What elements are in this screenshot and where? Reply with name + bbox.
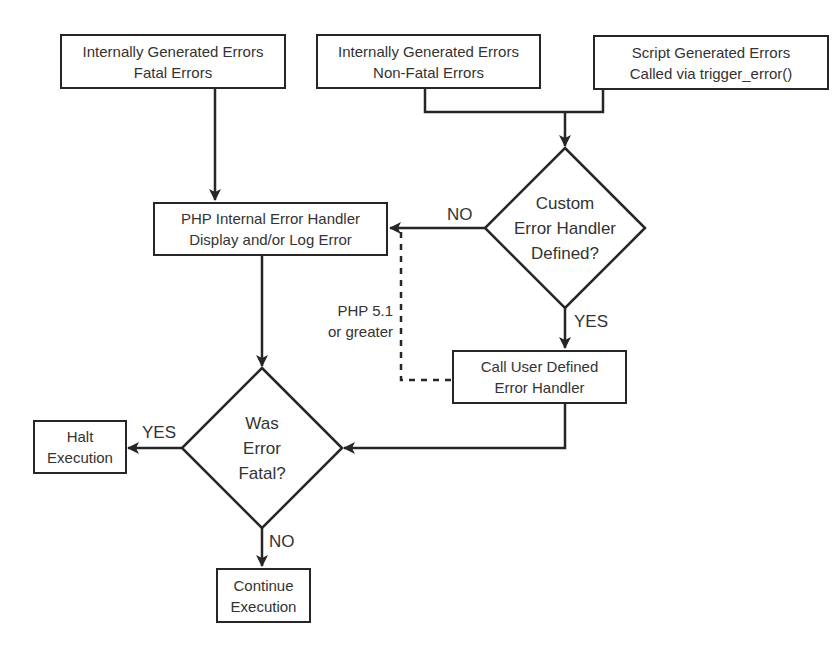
node-text: Fatal Errors [134,62,212,83]
node-text: Non-Fatal Errors [373,62,484,83]
edge-user-handler-to-fatal [344,403,565,448]
node-text: Called via trigger_error() [630,63,793,84]
node-script-generated-errors: Script Generated Errors Called via trigg… [593,35,829,90]
note-text: PHP 5.1 [318,300,393,321]
node-text: Error Handler [514,216,616,241]
node-text: Internally Generated Errors [83,41,264,62]
edge-label-custom-yes: YES [574,312,608,332]
node-text: Error Handler [494,377,584,398]
node-halt-execution: Halt Execution [33,420,127,474]
edge-label-fatal-no: NO [269,532,295,552]
node-text: Internally Generated Errors [338,41,519,62]
node-text: PHP Internal Error Handler [181,208,360,229]
node-php-internal-error-handler: PHP Internal Error Handler Display and/o… [153,202,388,256]
edge-label-custom-no: NO [447,205,473,225]
node-text: Call User Defined [481,356,599,377]
node-text: Continue [233,575,293,596]
node-internal-nonfatal-errors: Internally Generated Errors Non-Fatal Er… [316,34,541,89]
edge-label-fatal-yes: YES [142,423,176,443]
dashed-edge-note: PHP 5.1 or greater [318,300,393,342]
node-text: Was [245,411,278,436]
edge-merge-sources [425,88,603,112]
node-text: Defined? [531,241,599,266]
node-continue-execution: Continue Execution [216,568,311,623]
connector-layer [0,0,840,649]
node-text: Fatal? [238,461,285,486]
node-text: Halt [67,426,94,447]
node-text: Execution [231,596,297,617]
node-was-error-fatal-decision: Was Error Fatal? [212,398,312,498]
node-call-user-defined-error-handler: Call User Defined Error Handler [452,350,627,404]
node-text: Display and/or Log Error [189,229,352,250]
edge-php51-dashed [401,232,452,380]
node-custom-handler-decision: Custom Error Handler Defined? [495,178,635,278]
node-internal-fatal-errors: Internally Generated Errors Fatal Errors [60,34,286,89]
note-text: or greater [318,321,393,342]
node-text: Error [243,436,281,461]
node-text: Execution [47,447,113,468]
node-text: Custom [536,191,595,216]
node-text: Script Generated Errors [632,42,790,63]
